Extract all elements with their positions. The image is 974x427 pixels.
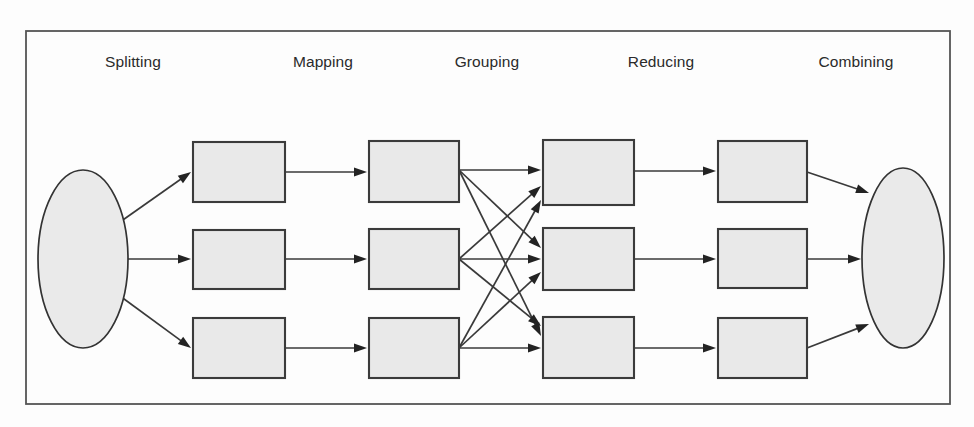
group-box-2[interactable] [543, 228, 634, 290]
output-data-ellipse[interactable] [862, 168, 944, 348]
edge-reduce-to-output-3 [807, 324, 869, 348]
group-box-1[interactable] [543, 140, 634, 205]
stage-label-splitting: Splitting [105, 53, 161, 70]
group-box-3[interactable] [543, 317, 634, 378]
edge-input-to-split-1 [120, 172, 191, 222]
edge-map1-to-group1 [459, 166, 541, 175]
edge-reduce-to-output-2-arrowhead [848, 255, 861, 264]
edge-map3-to-group3 [459, 344, 541, 353]
diagram-page: SplittingMappingGroupingReducingCombinin… [0, 0, 974, 427]
mapreduce-pipeline-diagram: SplittingMappingGroupingReducingCombinin… [0, 0, 974, 427]
edge-map2-to-group2 [459, 255, 541, 264]
reduce-box-3[interactable] [718, 318, 807, 378]
edge-reduce-to-output-1-arrowhead [855, 185, 869, 194]
edge-input-to-split-1-arrowhead [178, 172, 191, 183]
edge-group-to-reduce-1-arrowhead [703, 167, 716, 176]
edge-map2-to-group3 [459, 259, 541, 326]
edge-map1-to-group2-line [459, 170, 534, 241]
edge-group-to-reduce-1 [634, 167, 716, 176]
edge-split-to-map-2 [285, 255, 367, 264]
edge-group-to-reduce-3-arrowhead [703, 344, 716, 353]
edge-split-to-map-1-arrowhead [354, 168, 367, 177]
edge-map2-to-group2-arrowhead [528, 255, 541, 264]
map-box-3[interactable] [369, 318, 459, 378]
split-box-2[interactable] [193, 230, 285, 289]
edge-reduce-to-output-3-line [807, 328, 860, 348]
stage-label-grouping: Grouping [455, 53, 520, 70]
edge-map1-to-group2 [459, 170, 541, 248]
edge-reduce-to-output-1 [807, 172, 869, 193]
reduce-box-2[interactable] [718, 229, 807, 288]
map-box-1[interactable] [369, 141, 459, 202]
stage-label-row: SplittingMappingGroupingReducingCombinin… [105, 53, 894, 70]
edge-map1-to-group1-arrowhead [528, 166, 541, 175]
edge-input-to-split-2 [128, 255, 191, 264]
edge-group-to-reduce-2 [634, 255, 716, 264]
edge-split-to-map-1 [285, 168, 367, 177]
edge-split-to-map-3 [285, 344, 367, 353]
edge-reduce-to-output-1-line [807, 172, 860, 190]
edge-map3-to-group1-arrowhead [531, 200, 541, 214]
edge-map3-to-group1-line [459, 209, 536, 348]
edge-input-to-split-2-arrowhead [178, 255, 191, 264]
reduce-box-1[interactable] [718, 141, 807, 202]
edge-map3-to-group3-arrowhead [528, 344, 541, 353]
edge-split-to-map-3-arrowhead [354, 344, 367, 353]
edge-reduce-to-output-2 [807, 255, 861, 264]
edge-input-to-split-3 [120, 296, 191, 348]
edge-split-to-map-2-arrowhead [354, 255, 367, 264]
edge-group-to-reduce-3 [634, 344, 716, 353]
edge-map2-to-group1-line [459, 193, 534, 259]
split-box-3[interactable] [193, 318, 285, 378]
split-box-1[interactable] [193, 142, 285, 202]
stage-label-combining: Combining [819, 53, 894, 70]
edge-input-to-split-1-line [120, 178, 183, 222]
edge-input-to-split-3-arrowhead [178, 337, 191, 348]
map-box-2[interactable] [369, 229, 459, 289]
edge-reduce-to-output-3-arrowhead [855, 324, 869, 333]
edge-input-to-split-3-line [120, 296, 183, 342]
stage-label-mapping: Mapping [293, 53, 353, 70]
edge-group-to-reduce-2-arrowhead [703, 255, 716, 264]
stage-label-reducing: Reducing [628, 53, 694, 70]
input-data-ellipse[interactable] [38, 170, 128, 348]
